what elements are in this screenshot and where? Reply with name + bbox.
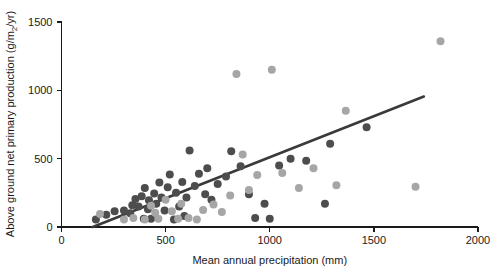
- data-point-dark: [302, 157, 310, 165]
- data-point-light: [174, 215, 182, 223]
- scatter-plot-figure: 0500100015000500100015002000 Mean annual…: [0, 0, 494, 274]
- data-point-dark: [135, 203, 143, 211]
- data-points-group: [92, 37, 445, 223]
- data-point-light: [437, 37, 445, 45]
- data-point-dark: [178, 178, 186, 186]
- data-point-light: [147, 202, 155, 210]
- data-point-dark: [275, 162, 283, 170]
- data-point-light: [226, 192, 234, 200]
- data-point-light: [193, 215, 201, 223]
- x-tick-label-2000: 2000: [466, 234, 490, 246]
- data-point-light: [162, 196, 170, 204]
- y-tick-label-1500: 1500: [28, 16, 52, 28]
- data-point-light: [232, 70, 240, 78]
- data-point-dark: [326, 140, 334, 148]
- x-axis-title: Mean annual precipitation (mm): [192, 254, 347, 266]
- data-point-dark: [161, 207, 169, 215]
- data-point-dark: [203, 164, 211, 172]
- data-point-dark: [195, 170, 203, 178]
- y-tick-label-0: 0: [46, 221, 52, 233]
- data-point-dark: [138, 192, 146, 200]
- y-tick-label-1000: 1000: [28, 84, 52, 96]
- data-point-light: [96, 210, 104, 218]
- data-point-dark: [266, 215, 274, 223]
- data-point-light: [168, 207, 176, 215]
- data-point-light: [309, 164, 317, 172]
- data-point-light: [129, 214, 137, 222]
- data-point-light: [120, 215, 128, 223]
- data-point-dark: [191, 182, 199, 190]
- data-point-light: [141, 215, 149, 223]
- data-point-dark: [111, 207, 119, 215]
- data-point-dark: [141, 184, 149, 192]
- data-point-light: [199, 206, 207, 214]
- data-point-light: [278, 169, 286, 177]
- data-point-dark: [363, 123, 371, 131]
- data-point-dark: [201, 190, 209, 198]
- data-point-light: [154, 215, 162, 223]
- plot-canvas: 0500100015000500100015002000 Mean annual…: [0, 0, 494, 274]
- data-point-light: [210, 200, 218, 208]
- data-point-dark: [214, 180, 222, 188]
- data-point-light: [412, 183, 420, 191]
- x-tick-label-500: 500: [156, 234, 174, 246]
- data-point-dark: [164, 183, 172, 191]
- y-axis-title: Above ground net primary production (g/m…: [4, 11, 19, 237]
- data-point-light: [218, 208, 226, 216]
- data-point-light: [185, 214, 193, 222]
- data-point-dark: [227, 147, 235, 155]
- data-point-dark: [186, 146, 194, 154]
- data-point-dark: [155, 179, 163, 187]
- data-point-light: [245, 186, 253, 194]
- data-point-dark: [222, 172, 230, 180]
- data-point-dark: [172, 189, 180, 197]
- data-point-dark: [182, 194, 190, 202]
- data-point-dark: [166, 170, 174, 178]
- data-point-dark: [237, 162, 245, 170]
- x-tick-label-0: 0: [58, 234, 64, 246]
- data-point-dark: [261, 200, 269, 208]
- data-point-light: [177, 200, 185, 208]
- data-point-light: [332, 181, 340, 189]
- data-point-light: [342, 107, 350, 115]
- data-point-light: [253, 171, 261, 179]
- y-tick-label-500: 500: [34, 153, 52, 165]
- data-point-dark: [287, 155, 295, 163]
- data-point-dark: [150, 190, 158, 198]
- data-point-light: [268, 66, 276, 74]
- data-point-dark: [251, 214, 259, 222]
- data-point-light: [295, 184, 303, 192]
- x-tick-label-1000: 1000: [258, 234, 282, 246]
- data-point-dark: [321, 200, 329, 208]
- data-point-light: [239, 151, 247, 159]
- x-tick-label-1500: 1500: [362, 234, 386, 246]
